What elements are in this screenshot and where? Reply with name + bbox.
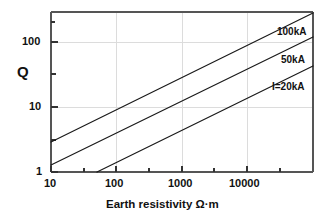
- y-tick-label-1: 1: [36, 166, 42, 177]
- series-label-20ka: I=20kA: [272, 82, 305, 92]
- series-label-50ka: 50kA: [281, 55, 305, 65]
- x-axis-ticks: [51, 166, 280, 172]
- x-tick-label-10: 10: [44, 178, 56, 189]
- y-axis-title: Q: [17, 64, 29, 79]
- chart-figure: 100 10 1 Q 10 100 1000 10000 Earth resis…: [0, 0, 328, 220]
- grid-lines: [51, 12, 313, 172]
- y-axis-ticks: [51, 22, 58, 172]
- y-tick-label-100: 100: [22, 36, 40, 47]
- x-axis-title: Earth resistivity Ω·m: [106, 199, 219, 211]
- y-tick-label-10: 10: [29, 101, 41, 112]
- x-tick-label-1000: 1000: [168, 178, 192, 189]
- series-label-100ka: 100kA: [277, 27, 306, 37]
- x-tick-label-10000: 10000: [229, 178, 260, 189]
- x-tick-label-100: 100: [105, 178, 123, 189]
